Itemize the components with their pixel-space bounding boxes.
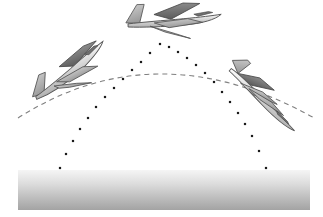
trajectory-dot	[149, 52, 151, 54]
trajectory-dot	[140, 61, 142, 63]
trajectory-dot	[87, 117, 89, 119]
trajectory-dot	[122, 78, 124, 80]
trajectory-dot	[186, 57, 188, 59]
trajectory-dot	[113, 87, 115, 89]
trajectory-dot	[95, 106, 97, 108]
illustration-canvas	[0, 0, 323, 217]
trajectory-dot	[244, 123, 246, 125]
aircraft-silhouette	[125, 2, 222, 41]
trajectory-dot	[258, 150, 260, 152]
trajectory-dot	[265, 167, 267, 169]
ground-surface	[18, 170, 310, 210]
trajectory-dot	[79, 128, 81, 130]
trajectory-dot	[72, 140, 74, 142]
trajectory-dot	[131, 69, 133, 71]
trajectory-dot	[59, 167, 61, 169]
trajectory-dot	[251, 135, 253, 137]
trajectory-dot	[65, 153, 67, 155]
trajectory-dot	[177, 51, 179, 53]
trajectory-dot	[204, 72, 206, 74]
trajectory-dot	[195, 64, 197, 66]
trajectory-dot	[104, 96, 106, 98]
